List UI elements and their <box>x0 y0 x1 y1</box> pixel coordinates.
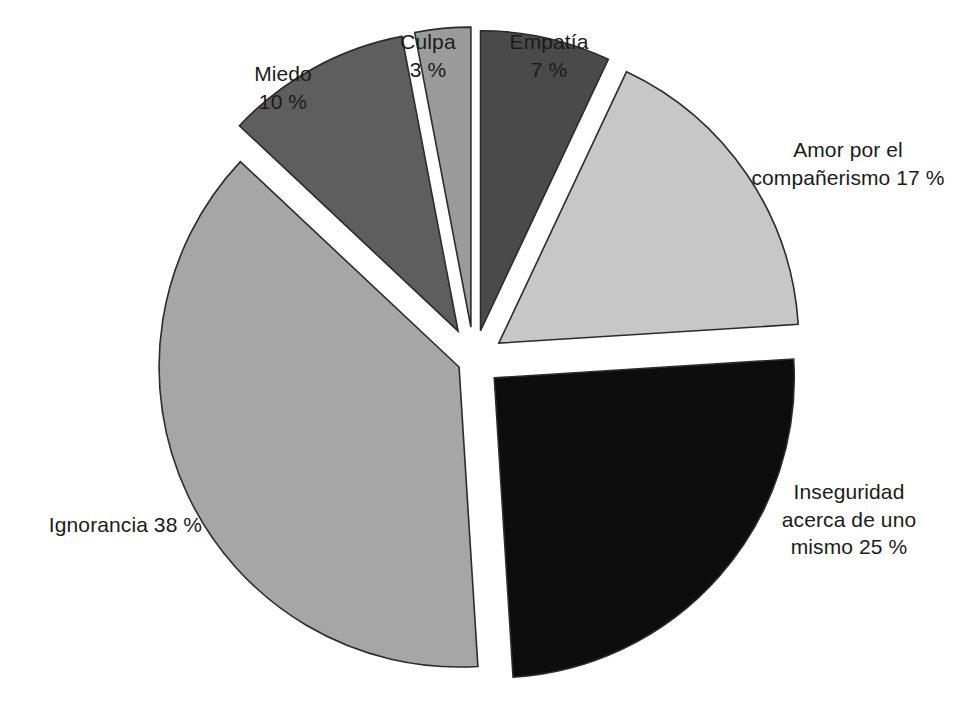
slice-label-miedo: Miedo 10 % <box>218 60 348 115</box>
slice-label-culpa: Culpa 3 % <box>368 28 488 83</box>
slice-label-ignorancia: Ignorancia 38 % <box>18 511 233 539</box>
pie-chart-svg <box>0 0 967 705</box>
pie-slices-group <box>159 27 798 677</box>
slice-label-inseguridad-acerca-de-uno-mismo: Inseguridad acerca de uno mismo 25 % <box>744 478 954 561</box>
slice-label-amor-por-el-companerismo: Amor por el compañerismo 17 % <box>742 136 954 191</box>
pie-chart-figure: Miedo 10 % Culpa 3 % Empatía 7 % Amor po… <box>0 0 967 705</box>
slice-label-empatia: Empatía 7 % <box>484 28 614 83</box>
